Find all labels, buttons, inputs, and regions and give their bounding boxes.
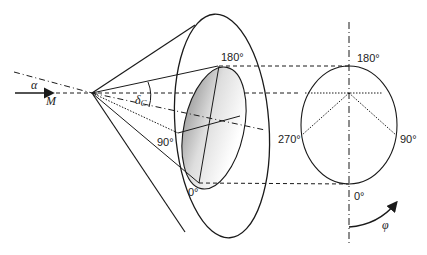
circle-0-label: 0° <box>354 190 365 202</box>
incident-axis-line <box>14 72 92 93</box>
circle-dotted-right <box>349 93 396 135</box>
delta-c-label: δC <box>135 93 148 108</box>
phi-rotation-arrow <box>349 203 396 227</box>
phi-label: φ <box>382 218 389 232</box>
outer-cone-bottom-line <box>92 93 185 232</box>
circle-180-label: 180° <box>357 52 380 64</box>
cone-0-label: 0° <box>188 186 199 198</box>
alpha-label: α <box>31 78 38 92</box>
diagram-canvas: α M δC 180° 90° 0° 180° 270° 90° 0° φ <box>0 0 427 255</box>
circle-dotted-left <box>302 93 349 135</box>
m-label: M <box>45 94 57 108</box>
circle-270-label: 270° <box>278 133 301 145</box>
outer-cone-top-line <box>92 25 195 93</box>
cone-180-label: 180° <box>221 51 244 63</box>
inner-cone-ellipse <box>172 61 256 195</box>
cone-90-label: 90° <box>157 136 174 148</box>
circle-90-label: 90° <box>400 133 417 145</box>
projection-0-line <box>199 183 349 184</box>
delta-c-arc <box>148 82 151 107</box>
